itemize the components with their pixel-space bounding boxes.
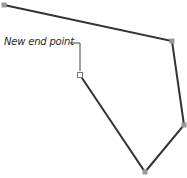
anchor-point[interactable] xyxy=(143,170,148,175)
anchor-point[interactable] xyxy=(170,39,175,44)
path-diagram xyxy=(0,0,187,178)
end-point-label: New end point xyxy=(4,36,74,47)
end-anchor-point[interactable] xyxy=(78,73,83,78)
leader-line xyxy=(70,43,80,71)
path-line xyxy=(4,5,184,172)
anchor-point[interactable] xyxy=(182,123,187,128)
anchor-point[interactable] xyxy=(2,3,7,8)
